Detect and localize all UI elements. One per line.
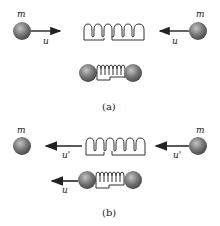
mass-label-left-b: m (17, 125, 26, 135)
compressed-spring-icon (96, 172, 124, 188)
ball-compressed-left-a (79, 64, 97, 82)
collision-diagram: m u m u (a) m u' (0, 0, 220, 226)
spring-icon (84, 24, 144, 40)
mass-label-right-b: m (196, 125, 205, 135)
velocity-label-right-b: u' (173, 150, 181, 160)
panel-a: m u m u (a) (13, 9, 207, 112)
panel-a-caption: (a) (102, 101, 116, 112)
ball-left-b (13, 137, 31, 155)
ball-compressed-right-b (124, 171, 142, 189)
spring-icon (86, 138, 145, 155)
ball-compressed-right-a (124, 64, 142, 82)
compressed-spring-icon (97, 65, 125, 80)
ball-right-b (189, 137, 207, 155)
velocity-label-combined-b: u (62, 185, 68, 195)
mass-label-right-a: m (196, 9, 205, 19)
velocity-label-right-a: u (172, 36, 178, 46)
panel-b-caption: (b) (102, 207, 116, 218)
panel-b: m u' m u' u (b) (13, 125, 207, 218)
velocity-label-left-b: u' (62, 150, 70, 160)
velocity-label-left-a: u (43, 36, 49, 46)
ball-compressed-left-b (78, 171, 96, 189)
ball-right-a (189, 22, 207, 40)
ball-left-a (13, 22, 31, 40)
mass-label-left-a: m (17, 9, 26, 19)
